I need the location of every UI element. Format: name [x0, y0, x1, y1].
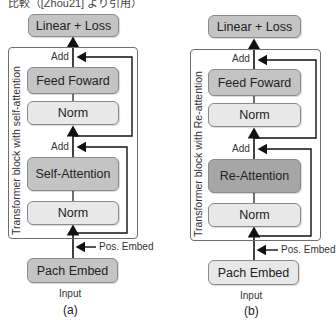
transformer-block-label: Transformer block with Re-attention: [192, 71, 204, 237]
input-label: Input: [240, 290, 262, 301]
panel-a: Linear + Loss Transformer block with sel…: [0, 0, 168, 320]
norm-bottom-box: Norm: [208, 203, 301, 227]
patch-embed-box: Pach Embed: [27, 258, 118, 283]
subfigure-label-b: (b): [244, 304, 259, 318]
panel-b: Linear + Loss Transformer block with Re-…: [168, 0, 336, 320]
self-attention-box: Self-Attention: [27, 157, 119, 191]
norm-top-box: Norm: [27, 101, 119, 125]
add-label-bottom: Add: [51, 141, 69, 152]
pos-embed-label: Pos. Embed: [281, 244, 335, 255]
re-attention-box: Re-Attention: [208, 159, 301, 193]
input-label: Input: [59, 288, 81, 299]
linear-loss-box: Linear + Loss: [28, 14, 119, 37]
norm-top-box: Norm: [208, 103, 301, 127]
add-label-top: Add: [51, 51, 69, 62]
transformer-block-label: Transformer block with self-attention: [10, 66, 22, 235]
patch-embed-box: Pach Embed: [208, 260, 299, 285]
feed-forward-box: Feed Foward: [208, 69, 301, 96]
add-label-bottom: Add: [232, 143, 250, 154]
add-label-top: Add: [232, 53, 250, 64]
subfigure-label-a: (a): [63, 303, 78, 317]
feed-forward-box: Feed Foward: [27, 67, 119, 94]
pos-embed-label: Pos. Embed: [99, 241, 153, 252]
norm-bottom-box: Norm: [27, 201, 119, 225]
linear-loss-box: Linear + Loss: [208, 15, 301, 38]
